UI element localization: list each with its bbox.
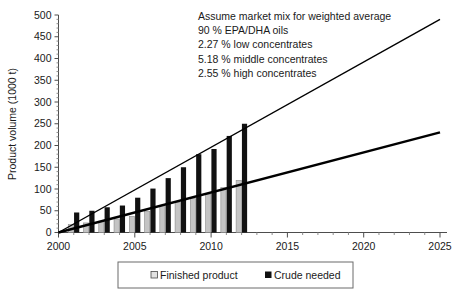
bar-crude-needed <box>242 124 247 233</box>
bar-finished-product <box>114 219 119 232</box>
legend-label-finished-product: Finished product <box>160 269 238 281</box>
x-tick-label: 2010 <box>199 240 223 252</box>
x-tick-label: 2025 <box>428 240 452 252</box>
chart-legend: Finished product Crude needed <box>118 262 353 288</box>
annotation-line: 5.18 % middle concentrates <box>198 53 328 65</box>
annotation-line: Assume market mix for weighted average <box>198 10 391 22</box>
legend-label-crude-needed: Crude needed <box>274 269 341 281</box>
bar-crude-needed <box>135 198 140 233</box>
bar-crude-needed <box>196 154 201 232</box>
bar-finished-product <box>190 199 195 233</box>
y-tick-label: 0 <box>46 226 52 238</box>
y-tick-label: 50 <box>40 204 52 216</box>
annotation-line: 2.55 % high concentrates <box>198 67 317 79</box>
bar-finished-product <box>175 202 180 232</box>
chart-figure: 050100150200250300350400450500 200020052… <box>0 0 463 297</box>
bar-finished-product <box>160 206 165 233</box>
legend-swatch-crude-needed <box>265 272 272 279</box>
y-tick-label: 300 <box>34 96 52 108</box>
x-tick-label: 2000 <box>47 240 71 252</box>
y-tick-label: 100 <box>34 183 52 195</box>
annotation-line: 2.27 % low concentrates <box>198 38 312 50</box>
legend-swatch-finished-product <box>151 272 158 279</box>
y-tick-label: 250 <box>34 117 52 129</box>
bar-finished-product <box>206 195 211 233</box>
product-volume-chart: 050100150200250300350400450500 200020052… <box>0 0 463 297</box>
bar-finished-product <box>236 180 241 232</box>
annotation-line: 90 % EPA/DHA oils <box>198 24 288 36</box>
bar-crude-needed <box>120 206 125 233</box>
bar-crude-needed <box>227 136 232 233</box>
y-axis-title: Product volume (1000 t) <box>6 68 18 180</box>
bar-finished-product <box>129 216 134 232</box>
x-tick-label: 2015 <box>276 240 300 252</box>
y-tick-label: 150 <box>34 161 52 173</box>
y-tick-label: 450 <box>34 30 52 42</box>
bar-finished-product <box>145 212 150 233</box>
y-tick-label: 400 <box>34 52 52 64</box>
y-tick-label: 350 <box>34 74 52 86</box>
y-tick-label: 200 <box>34 139 52 151</box>
x-tick-label: 2005 <box>123 240 147 252</box>
x-tick-label: 2020 <box>352 240 376 252</box>
bar-crude-needed <box>150 189 155 233</box>
bar-finished-product <box>221 188 226 233</box>
y-tick-label: 500 <box>34 9 52 21</box>
